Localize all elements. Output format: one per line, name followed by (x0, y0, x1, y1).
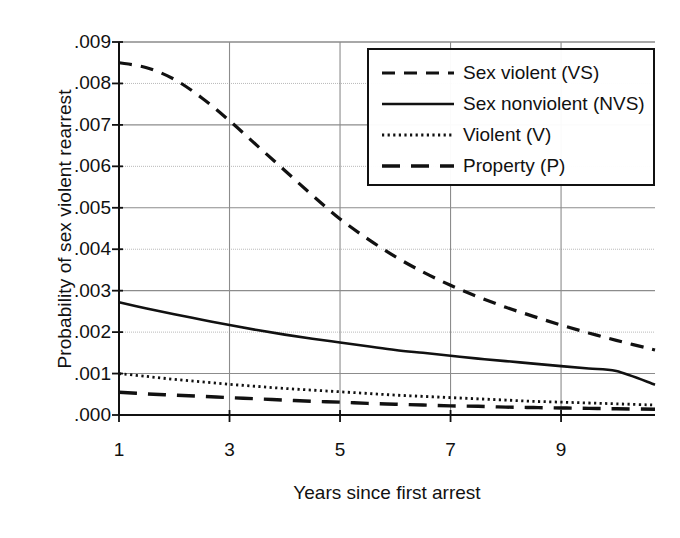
legend-item: Violent (V) (381, 120, 551, 150)
legend-label: Sex nonviolent (NVS) (463, 93, 645, 115)
x-axis-tick-labels: 13579 (0, 440, 680, 466)
legend-item: Sex nonviolent (NVS) (381, 89, 645, 119)
legend-label: Violent (V) (463, 124, 551, 146)
x-tick-label: 3 (215, 440, 245, 459)
x-tick-label: 9 (546, 440, 576, 459)
series-line-NVS (119, 302, 655, 384)
legend-swatch-longdash (381, 157, 455, 175)
legend-swatch-dashed (381, 64, 455, 82)
legend-item: Property (P) (381, 151, 565, 181)
x-tick-label: 1 (104, 440, 134, 459)
legend-swatch-solid (381, 95, 455, 113)
chart-figure: Probability of sex violent rearrest .000… (0, 0, 680, 538)
legend-swatch-dotted (381, 126, 455, 144)
x-tick-label: 7 (436, 440, 466, 459)
legend-label: Sex violent (VS) (463, 62, 599, 84)
x-tick-label: 5 (325, 440, 355, 459)
legend-label: Property (P) (463, 155, 565, 177)
legend-item: Sex violent (VS) (381, 58, 599, 88)
series-line-V (119, 374, 655, 405)
legend: Sex violent (VS)Sex nonviolent (NVS)Viol… (367, 48, 655, 186)
x-axis-title: Years since first arrest (119, 482, 655, 504)
